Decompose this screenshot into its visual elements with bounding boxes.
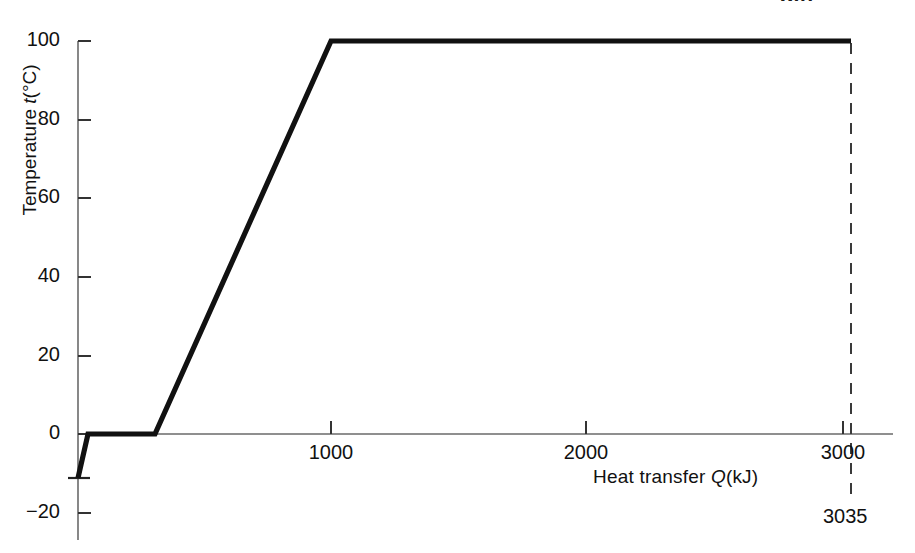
- y-tick-label-0: 0: [0, 421, 60, 444]
- y-axis-title: Temperature t(°C): [19, 20, 45, 260]
- chart-figure: gy) 100 80 60 40 20: [0, 0, 915, 553]
- x-tick-label-2000: 2000: [536, 441, 636, 464]
- y-axis-title-prefix: Temperature: [19, 104, 40, 216]
- y-tick-label-40: 40: [0, 264, 60, 287]
- annotation-label-3035: 3035: [823, 505, 868, 528]
- x-tick-label-1000: 1000: [281, 441, 381, 464]
- x-tick-label-3000: 3000: [793, 441, 893, 464]
- y-axis-title-symbol: t: [19, 98, 40, 103]
- y-axis-title-suffix: (°C): [19, 64, 40, 98]
- x-axis-title-symbol: Q: [711, 466, 726, 487]
- x-tick-marks: [331, 421, 843, 434]
- y-tick-label-20: 20: [0, 343, 60, 366]
- x-axis-title: Heat transfer Q(kJ): [593, 466, 758, 488]
- heating-curve: [78, 41, 851, 478]
- plot-canvas: [0, 0, 915, 553]
- x-axis-title-prefix: Heat transfer: [593, 466, 711, 487]
- y-tick-label-minus-20: −20: [0, 500, 60, 523]
- x-axis-title-suffix: (kJ): [726, 466, 758, 487]
- y-axis-title-text: Temperature t(°C): [19, 64, 41, 215]
